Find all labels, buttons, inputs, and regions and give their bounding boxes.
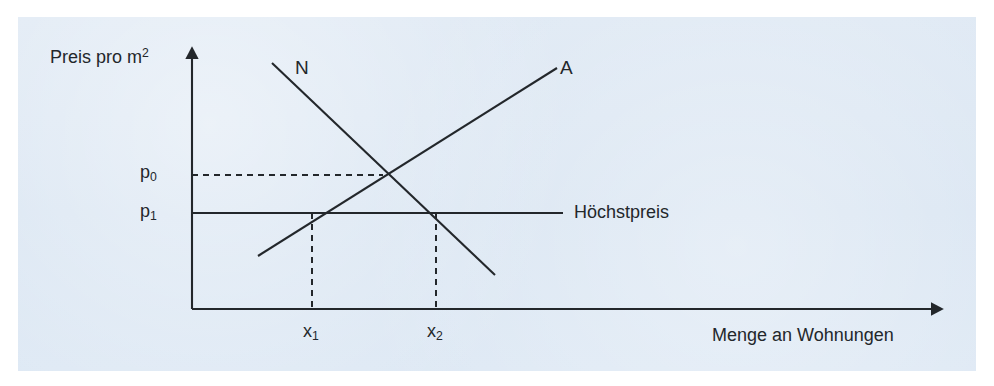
demand-curve-label: N <box>295 58 309 77</box>
y-axis-label-text: Preis pro m <box>50 47 142 67</box>
ceiling-price-label: p1 <box>140 202 157 220</box>
price-ceiling-label: Höchstpreis <box>574 203 669 221</box>
quantity-supplied-label: x1 <box>303 322 319 340</box>
economics-diagram: Preis pro m2 Menge an Wohnungen N A p0 p… <box>0 0 994 386</box>
supply-curve <box>258 68 557 256</box>
equilibrium-price-base: p <box>140 162 150 182</box>
quantity-supplied-base: x <box>303 321 312 341</box>
supply-curve-label: A <box>560 58 573 77</box>
equilibrium-price-sub: 0 <box>150 170 157 184</box>
x-axis-label: Menge an Wohnungen <box>712 326 894 344</box>
y-axis-label-exponent: 2 <box>142 46 149 60</box>
equilibrium-price-label: p0 <box>140 163 157 181</box>
quantity-demanded-sub: 2 <box>436 329 443 343</box>
quantity-supplied-sub: 1 <box>312 329 319 343</box>
quantity-demanded-base: x <box>427 321 436 341</box>
demand-curve <box>272 63 495 275</box>
y-axis-label: Preis pro m2 <box>50 48 149 66</box>
ceiling-price-base: p <box>140 201 150 221</box>
ceiling-price-sub: 1 <box>150 209 157 223</box>
quantity-demanded-label: x2 <box>427 322 443 340</box>
